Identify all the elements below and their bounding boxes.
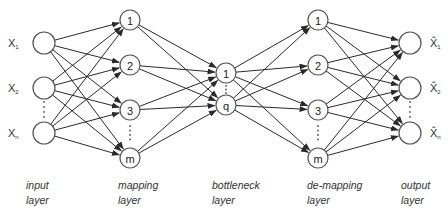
connection-arrow bbox=[326, 71, 400, 126]
bottleneck-node: 1 bbox=[216, 63, 236, 83]
mapping-node: m bbox=[120, 148, 140, 168]
neuron-label: 3 bbox=[127, 105, 133, 117]
neuron-circle bbox=[399, 32, 421, 54]
demapping-node: 2 bbox=[308, 55, 328, 75]
connection-arrow bbox=[55, 23, 120, 40]
neuron-circle bbox=[399, 122, 421, 144]
connection-arrow bbox=[51, 52, 124, 149]
output-node: X̂2 bbox=[399, 77, 441, 99]
neuron-label: 1 bbox=[127, 15, 133, 27]
connection-arrow bbox=[324, 52, 402, 150]
mapping-node: 3 bbox=[120, 100, 140, 120]
neuron-circle bbox=[33, 32, 55, 54]
neuron-label: 1 bbox=[315, 15, 321, 27]
output-variable-label: X̂2 bbox=[430, 81, 441, 95]
connection-arrow bbox=[233, 80, 310, 151]
mapping-node: 1 bbox=[120, 10, 140, 30]
neuron-nodes: X1X2Xn123m1q123mX̂1X̂2X̂n bbox=[8, 10, 441, 168]
neuron-label: 3 bbox=[315, 105, 321, 117]
neuron-label: 2 bbox=[127, 60, 133, 72]
connection-arrow bbox=[235, 69, 308, 101]
output-node: X̂n bbox=[399, 122, 441, 144]
input-node: X2 bbox=[8, 77, 55, 99]
connection-arrow bbox=[53, 72, 122, 126]
connection-arrow bbox=[139, 69, 216, 101]
connection-arrow bbox=[328, 112, 399, 130]
input-variable-label: X1 bbox=[8, 37, 19, 50]
connection-arrow bbox=[140, 106, 215, 110]
input-variable-label: X2 bbox=[8, 82, 19, 95]
connection-arrow bbox=[328, 136, 399, 155]
bottleneck-node: q bbox=[216, 95, 236, 115]
mapping-node: 2 bbox=[120, 55, 140, 75]
connection-arrow bbox=[326, 95, 400, 152]
output-node: X̂1 bbox=[399, 32, 441, 54]
connection-arrow bbox=[328, 46, 399, 63]
neuron-label: 1 bbox=[223, 68, 229, 80]
neuron-circle bbox=[33, 122, 55, 144]
neuron-label: m bbox=[313, 153, 322, 165]
connection-arrow bbox=[328, 22, 399, 40]
demapping-node: m bbox=[308, 148, 328, 168]
connection-arrow bbox=[53, 27, 122, 81]
connection-arrow bbox=[139, 25, 217, 68]
connection-arrow bbox=[51, 29, 124, 124]
output-layer-label: output layer bbox=[401, 178, 430, 208]
input-variable-label: Xn bbox=[8, 127, 19, 140]
connection-arrow bbox=[324, 28, 402, 124]
connection-arrow bbox=[236, 106, 307, 110]
connection-arrow bbox=[326, 26, 400, 81]
neuron-label: q bbox=[223, 100, 229, 112]
input-layer-label: input layer bbox=[26, 178, 49, 208]
neuron-label: 2 bbox=[315, 60, 321, 72]
output-variable-label: X̂1 bbox=[430, 36, 441, 50]
input-node: X1 bbox=[8, 32, 55, 54]
connection-arrow bbox=[235, 110, 309, 153]
connection-arrow bbox=[233, 27, 310, 98]
demapping-node: 1 bbox=[308, 10, 328, 30]
connection-arrow bbox=[236, 66, 307, 72]
input-node: Xn bbox=[8, 122, 55, 144]
demapping-layer-label: de-mapping layer bbox=[307, 178, 362, 208]
neuron-label: m bbox=[125, 153, 134, 165]
connection-arrow bbox=[326, 50, 400, 104]
connection-arrow bbox=[53, 95, 122, 151]
bottleneck-layer-label: bottleneck layer bbox=[212, 178, 260, 208]
connection-arrow bbox=[139, 110, 217, 153]
demapping-node: 3 bbox=[308, 100, 328, 120]
connection-arrow bbox=[55, 136, 120, 155]
connection-arrow bbox=[140, 66, 215, 72]
output-variable-label: X̂n bbox=[430, 126, 441, 140]
neuron-circle bbox=[33, 77, 55, 99]
neuron-circle bbox=[399, 77, 421, 99]
connection-arrow bbox=[55, 113, 120, 130]
mapping-layer-label: mapping layer bbox=[118, 178, 158, 208]
connection-arrow bbox=[235, 25, 309, 68]
